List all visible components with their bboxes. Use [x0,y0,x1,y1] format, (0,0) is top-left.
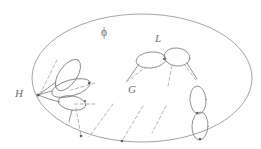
label-g: G [128,84,136,95]
l-loop-right [163,47,191,68]
h-cluster-group [37,55,93,122]
ray-mid-b [122,106,143,141]
r-loop-top [189,85,207,114]
right-cluster-group [189,85,209,140]
node-bottom-1 [80,135,83,138]
l-loop-left [135,50,167,69]
ray-h-right [71,83,95,90]
h-connector-middle [38,91,52,95]
h-loop-lower [57,94,87,113]
l-tail-right [187,63,197,79]
r-joint-node [196,112,198,114]
figure-root: ϕ L G H [0,0,261,149]
h-loop-lower-tail [69,110,72,122]
r-loop-bottom [191,112,208,141]
h-connector-lower [38,95,60,102]
phi-outer-ellipse [32,14,252,142]
boundary-node-group [80,135,124,143]
h-basepoint-node [37,94,40,97]
ray-l-left [126,67,146,82]
ray-l-right [184,64,196,80]
node-bottom-2 [121,140,124,143]
ray-h-down [76,108,81,136]
ray-l-mid [168,66,172,86]
ray-mid-a [89,104,113,137]
h-joint-node-a [88,82,90,84]
ray-right-b [152,106,166,133]
diagram-canvas [0,0,261,149]
dashed-ray-group [41,60,196,141]
h-joint-node-b [84,100,86,102]
l-tail-left [127,64,139,81]
h-loop-upper [50,55,85,95]
label-h: H [15,88,23,99]
outer-region-group [32,14,252,142]
l-cluster-group [127,47,197,81]
r-boundary-node [199,138,201,140]
label-phi: ϕ [101,27,107,39]
label-l: L [155,33,161,44]
l-joint-node [163,58,165,60]
